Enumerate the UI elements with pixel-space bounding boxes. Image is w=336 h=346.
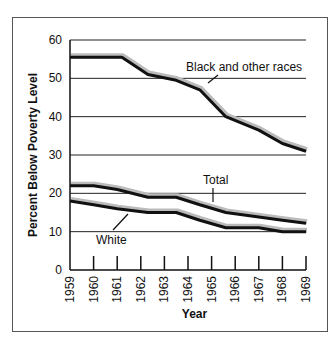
y-axis-title: Percent Below Poverty Level: [26, 73, 40, 237]
x-tick-label: 1961: [110, 276, 124, 303]
y-tick-label: 60: [49, 33, 63, 47]
x-tick-label: 1969: [299, 276, 313, 303]
x-tick-label: 1960: [87, 276, 101, 303]
line-chart: 0102030405060195919601961196219631964196…: [0, 0, 336, 346]
label-black: Black and other races: [186, 60, 302, 74]
y-tick-label: 20: [49, 186, 63, 200]
label-white: White: [96, 233, 127, 247]
y-tick-label: 0: [55, 263, 62, 277]
y-tick-label: 40: [49, 110, 63, 124]
x-tick-label: 1965: [205, 276, 219, 303]
x-tick-label: 1968: [275, 276, 289, 303]
x-axis-title: Year: [182, 307, 208, 321]
x-tick-label: 1959: [63, 276, 77, 303]
x-tick-label: 1963: [157, 276, 171, 303]
x-tick-label: 1962: [134, 276, 148, 303]
y-tick-label: 10: [49, 225, 63, 239]
leader-white: [113, 214, 128, 230]
y-tick-label: 50: [49, 71, 63, 85]
leader-black: [208, 75, 218, 83]
y-tick-label: 30: [49, 148, 63, 162]
x-tick-label: 1964: [181, 276, 195, 303]
x-tick-label: 1966: [228, 276, 242, 303]
x-tick-label: 1967: [252, 276, 266, 303]
label-total: Total: [203, 173, 228, 187]
